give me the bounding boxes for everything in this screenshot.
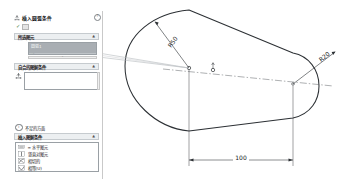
section-header-add-relations[interactable]: 插入图解条件 ▲ bbox=[14, 133, 99, 140]
dimension-icon bbox=[15, 72, 22, 80]
listbox-scrollbar[interactable]: ⌄ bbox=[28, 56, 97, 59]
info-note: i 不足的方面 bbox=[15, 124, 98, 131]
relation-item-horizontal[interactable]: = 水平图元 bbox=[16, 144, 98, 151]
help-icon[interactable]: ? bbox=[94, 14, 101, 21]
vertical-icon bbox=[18, 151, 25, 157]
panel-title: 插入圆弧条件 bbox=[22, 14, 53, 21]
drawing-canvas[interactable]: R50 R20 100 bbox=[103, 0, 343, 183]
relations-list[interactable]: = 水平图元 竖直对图元 相切的 bbox=[15, 142, 99, 172]
info-note-text: 不足的方面 bbox=[25, 125, 45, 131]
relation-label: 相等(U) bbox=[28, 165, 42, 171]
sketch-geometry bbox=[125, 10, 319, 131]
dimension-length[interactable]: 100 bbox=[189, 70, 293, 166]
horizontal-icon bbox=[18, 144, 25, 150]
auto-relations-listbox[interactable] bbox=[24, 72, 99, 90]
center-points bbox=[187, 63, 294, 86]
relation-item-tangent[interactable]: 相切的 bbox=[16, 158, 98, 165]
section-title: 插入图解条件 bbox=[18, 134, 42, 140]
sketch-svg: R50 R20 100 bbox=[103, 0, 343, 183]
tangent-icon bbox=[18, 158, 25, 164]
auto-relations-scrollbar[interactable] bbox=[97, 72, 100, 90]
info-icon: i bbox=[15, 124, 23, 132]
cad-sketch-window: 插入圆弧条件 ? ✓ 所选图元 ▲ 圆弧1 线1 ⌄ 自合的图解条件 ▲ bbox=[0, 0, 343, 183]
confirm-row: ✓ bbox=[16, 24, 96, 31]
section-title: 所选图元 bbox=[18, 34, 34, 40]
equal-icon bbox=[18, 165, 25, 171]
accept-check-icon[interactable]: ✓ bbox=[16, 24, 20, 29]
section-header-auto-relations[interactable]: 自合的图解条件 ▲ bbox=[14, 63, 99, 70]
chevron-up-icon[interactable]: ▲ bbox=[92, 135, 95, 139]
section-title: 自合的图解条件 bbox=[18, 64, 46, 70]
dimension-label-length[interactable]: 100 bbox=[235, 154, 247, 161]
chevron-up-icon[interactable]: ▲ bbox=[92, 65, 95, 69]
dimension-icon bbox=[14, 15, 20, 21]
property-manager-panel: 插入圆弧条件 ? ✓ 所选图元 ▲ 圆弧1 线1 ⌄ 自合的图解条件 ▲ bbox=[12, 11, 103, 179]
relation-label: = 水平图元 bbox=[28, 144, 49, 150]
chevron-up-icon[interactable]: ▲ bbox=[92, 35, 95, 39]
section-auto-relations: 自合的图解条件 ▲ bbox=[14, 63, 99, 70]
section-add-relations: 插入图解条件 ▲ bbox=[14, 133, 99, 140]
relation-label: 竖直对图元 bbox=[28, 151, 48, 157]
auto-relations-row bbox=[15, 72, 99, 90]
relation-label: 相切的 bbox=[28, 158, 40, 164]
dimension-radius-left[interactable]: R50 bbox=[155, 21, 189, 68]
panel-header: 插入圆弧条件 bbox=[14, 13, 99, 22]
dimension-label-radius-left[interactable]: R50 bbox=[166, 35, 179, 49]
section-selected-entities: 所选图元 ▲ bbox=[14, 33, 99, 40]
relation-item-vertical[interactable]: 竖直对图元 bbox=[16, 151, 98, 158]
selected-entities-listbox[interactable]: 圆弧1 线1 bbox=[28, 42, 97, 55]
section-header-selected-entities[interactable]: 所选图元 ▲ bbox=[14, 33, 99, 40]
dimension-label-radius-right[interactable]: R20 bbox=[317, 50, 331, 63]
options-button[interactable] bbox=[22, 24, 29, 31]
relation-item-equal[interactable]: 相等(U) bbox=[16, 165, 98, 172]
centerline bbox=[163, 69, 333, 86]
